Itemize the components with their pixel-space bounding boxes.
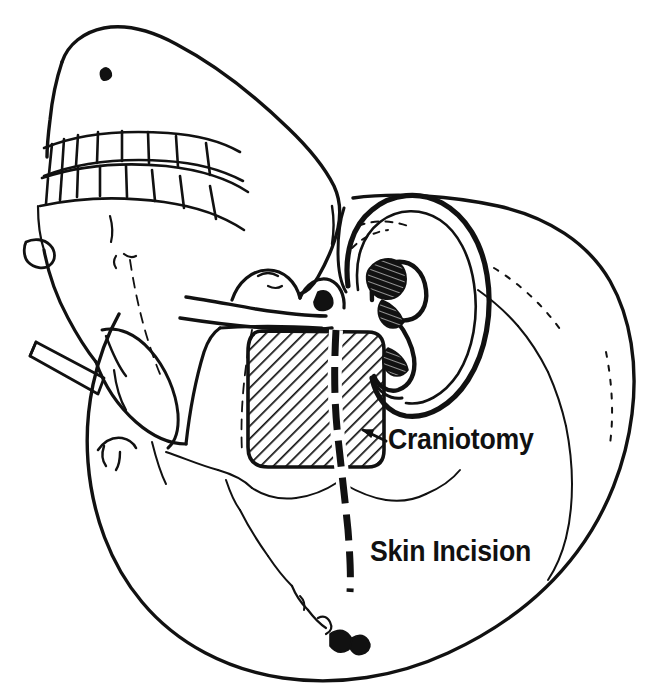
skull-illustration — [0, 0, 664, 699]
skin-incision-label: Skin Incision — [370, 536, 531, 566]
figure-canvas: Craniotomy Skin Incision — [0, 0, 664, 699]
maxilla-outline — [47, 27, 340, 294]
upper-teeth-row — [44, 131, 243, 181]
zygomatic-arch — [180, 270, 344, 330]
mastoid-process — [292, 586, 370, 655]
craniotomy-label: Craniotomy — [388, 424, 533, 454]
lower-teeth-row — [40, 165, 248, 231]
craniotomy-hatched-region — [248, 331, 384, 467]
occiput-dotted-accents — [494, 268, 612, 444]
orbit-cheek-mass — [96, 329, 186, 470]
maxilla-body — [24, 240, 104, 394]
temporal-faint-lines — [130, 260, 252, 452]
